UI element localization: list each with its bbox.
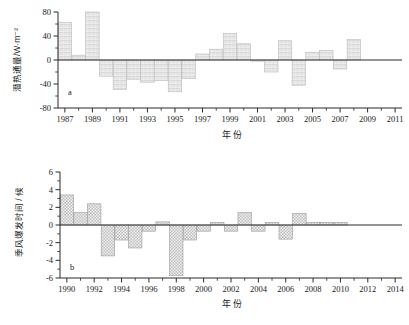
bar-2008 xyxy=(347,40,360,60)
ytick-label: 40 xyxy=(43,31,52,41)
panel-b-xaxis-title: 年 份 xyxy=(222,298,243,309)
xtick-label: 1990 xyxy=(58,284,75,294)
bar-1994 xyxy=(154,60,167,80)
bar-2000 xyxy=(237,44,250,60)
panel-a-yaxis-title: 潜热通量/W·m⁻² xyxy=(12,28,22,92)
xtick-label: 1997 xyxy=(194,114,211,124)
xtick-label: 1995 xyxy=(167,114,184,124)
xtick-label: 1994 xyxy=(113,284,131,294)
bar-2004 xyxy=(292,60,305,85)
bar-1996 xyxy=(182,60,195,79)
xtick-label: 1996 xyxy=(140,284,157,294)
xtick-label: 2009 xyxy=(359,114,376,124)
xtick-label: 2001 xyxy=(249,114,266,124)
xtick-label: 2003 xyxy=(277,114,294,124)
xtick-label: 2011 xyxy=(387,114,404,124)
bar-2006 xyxy=(279,225,292,239)
bar-1990 xyxy=(99,60,112,76)
bar-1997 xyxy=(196,54,209,60)
ytick-label: -4 xyxy=(46,255,54,265)
xtick-label: 1989 xyxy=(84,114,101,124)
ytick-label: -2 xyxy=(46,238,53,248)
bar-1992 xyxy=(88,204,101,225)
panel-a-xaxis-title: 年 份 xyxy=(222,129,243,140)
panel-a-bars xyxy=(58,12,360,92)
bar-1994 xyxy=(115,225,128,240)
panel-b-label: b xyxy=(70,262,74,272)
bar-1991 xyxy=(113,60,126,89)
xtick-label: 2012 xyxy=(359,284,376,294)
ytick-label: 0 xyxy=(47,55,51,65)
ytick-label: -6 xyxy=(46,273,53,283)
ytick-label: 2 xyxy=(49,202,53,212)
bar-2003 xyxy=(238,213,251,225)
ytick-label: -40 xyxy=(40,79,51,89)
panel-b-svg: -6-4-20246199019921994199619982000200220… xyxy=(0,160,409,325)
xtick-label: 1999 xyxy=(222,114,239,124)
xtick-label: 2005 xyxy=(304,114,321,124)
bar-2004 xyxy=(252,225,265,231)
bar-1993 xyxy=(101,225,114,256)
bar-2007 xyxy=(333,60,346,69)
ytick-label: 4 xyxy=(49,185,54,195)
ytick-label: 80 xyxy=(43,7,52,17)
panel-a-svg: -80-400408019871989199119931995199719992… xyxy=(0,0,409,160)
xtick-label: 1993 xyxy=(139,114,156,124)
chart-panel-b: -6-4-20246199019921994199619982000200220… xyxy=(0,160,409,325)
panel-b-bars xyxy=(60,195,347,275)
bar-2006 xyxy=(320,50,333,60)
bar-1992 xyxy=(127,60,140,79)
xtick-label: 2002 xyxy=(223,284,240,294)
figure-container: -80-400408019871989199119931995199719992… xyxy=(0,0,409,325)
bar-2003 xyxy=(278,41,291,60)
bar-2000 xyxy=(197,225,210,231)
bar-2002 xyxy=(224,225,237,231)
bar-1998 xyxy=(170,225,183,275)
bar-1989 xyxy=(86,12,99,60)
bar-1995 xyxy=(168,60,181,92)
ytick-label: -80 xyxy=(40,103,51,113)
xtick-label: 2008 xyxy=(305,284,322,294)
xtick-label: 1998 xyxy=(168,284,185,294)
panel-b-yaxis-title: 季风爆发时间 / 候 xyxy=(14,187,24,257)
xtick-label: 2007 xyxy=(332,114,349,124)
xtick-label: 2004 xyxy=(250,284,268,294)
bar-1991 xyxy=(74,213,87,225)
xtick-label: 2014 xyxy=(387,284,405,294)
panel-a-label: a xyxy=(68,87,72,97)
bar-2007 xyxy=(293,214,306,225)
bar-1987 xyxy=(58,22,71,60)
xtick-label: 2010 xyxy=(332,284,349,294)
bar-1999 xyxy=(223,34,236,60)
chart-panel-a: -80-400408019871989199119931995199719992… xyxy=(0,0,409,160)
bar-2005 xyxy=(306,52,319,60)
xtick-label: 1991 xyxy=(111,114,128,124)
bar-1998 xyxy=(210,49,223,60)
xtick-label: 2000 xyxy=(195,284,212,294)
bar-2002 xyxy=(265,60,278,72)
ytick-label: 6 xyxy=(49,167,53,177)
xtick-label: 1987 xyxy=(56,114,73,124)
xtick-label: 2006 xyxy=(277,284,294,294)
bar-1996 xyxy=(142,225,155,231)
xtick-label: 1992 xyxy=(86,284,103,294)
bar-1988 xyxy=(72,55,85,60)
bar-1993 xyxy=(141,60,154,82)
bar-1999 xyxy=(183,225,196,240)
bar-1995 xyxy=(129,225,142,248)
bar-1990 xyxy=(60,195,73,225)
ytick-label: 0 xyxy=(49,220,53,230)
